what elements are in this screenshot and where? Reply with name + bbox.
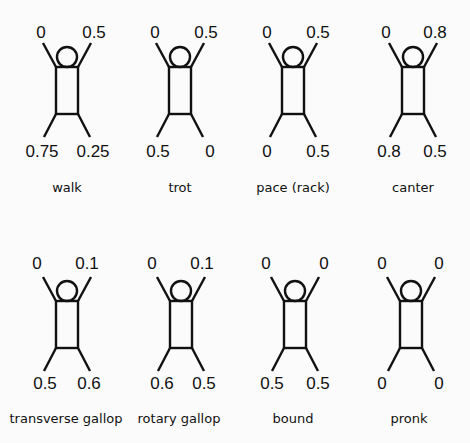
phase-right-hind: 0.5	[306, 142, 330, 161]
phase-left-hind: 0.5	[33, 374, 57, 393]
phase-right-fore: 0.1	[190, 254, 214, 273]
phase-left-fore: 0	[147, 254, 156, 273]
phase-left-fore: 0	[32, 254, 41, 273]
gait-name: canter	[392, 180, 434, 195]
gait-name: pronk	[390, 411, 428, 426]
animal-schematic-icon	[43, 277, 91, 371]
animal-schematic-icon	[157, 277, 205, 371]
gait-name: trot	[168, 180, 191, 195]
phase-left-fore: 0	[150, 23, 159, 42]
phase-right-fore: 0	[434, 254, 443, 273]
phase-right-fore: 0.8	[423, 23, 447, 42]
gait-figure-pronk: 0 0 0 0 pronk	[377, 254, 443, 426]
gait-figure-bound: 0 0 0.5 0.5 bound	[260, 254, 330, 426]
phase-left-fore: 0	[262, 23, 271, 42]
gait-figure-pace: 0 0.5 0 0.5 pace (rack)	[256, 23, 330, 195]
phase-right-fore: 0.5	[306, 23, 330, 42]
gait-name: pace (rack)	[256, 180, 330, 195]
phase-left-hind: 0	[377, 374, 386, 393]
gait-figure-canter: 0 0.8 0.8 0.5 canter	[377, 23, 447, 195]
phase-right-hind: 0	[434, 374, 443, 393]
gait-name: rotary gallop	[138, 411, 221, 426]
phase-right-hind: 0	[205, 142, 214, 161]
phase-right-hind: 0.5	[423, 142, 447, 161]
gait-name: transverse gallop	[9, 411, 122, 426]
animal-schematic-icon	[271, 277, 319, 371]
animal-schematic-icon	[156, 43, 204, 137]
phase-right-fore: 0	[319, 254, 328, 273]
phase-right-hind: 0.6	[77, 374, 101, 393]
phase-left-fore: 0	[261, 254, 270, 273]
phase-right-fore: 0.1	[75, 254, 99, 273]
animal-schematic-icon	[269, 43, 317, 137]
phase-right-hind: 0.5	[192, 374, 216, 393]
animal-schematic-icon	[389, 43, 437, 137]
phase-right-hind: 0.5	[306, 374, 330, 393]
gait-name: bound	[273, 411, 314, 426]
phase-left-hind: 0.8	[377, 142, 401, 161]
gait-name: walk	[52, 180, 82, 195]
phase-left-hind: 0	[262, 142, 271, 161]
phase-left-fore: 0	[36, 23, 45, 42]
phase-left-hind: 0.5	[146, 142, 170, 161]
animal-schematic-icon	[387, 277, 435, 371]
phase-left-fore: 0	[377, 254, 386, 273]
phase-left-hind: 0.5	[260, 374, 284, 393]
gait-diagram: 0 0.5 0.75 0.25 walk 0 0.5 0.5 0 trot 0	[0, 0, 470, 443]
phase-right-hind: 0.25	[76, 142, 109, 161]
phase-left-hind: 0.75	[25, 142, 58, 161]
gait-figure-transverse-gallop: 0 0.1 0.5 0.6 transverse gallop	[9, 254, 122, 426]
animal-schematic-icon	[43, 43, 91, 137]
phase-left-hind: 0.6	[150, 374, 174, 393]
gait-figure-rotary-gallop: 0 0.1 0.6 0.5 rotary gallop	[138, 254, 221, 426]
gait-figure-trot: 0 0.5 0.5 0 trot	[146, 23, 218, 195]
phase-right-fore: 0.5	[82, 23, 106, 42]
phase-left-fore: 0	[381, 23, 390, 42]
gait-figure-walk: 0 0.5 0.75 0.25 walk	[25, 23, 109, 195]
phase-right-fore: 0.5	[194, 23, 218, 42]
